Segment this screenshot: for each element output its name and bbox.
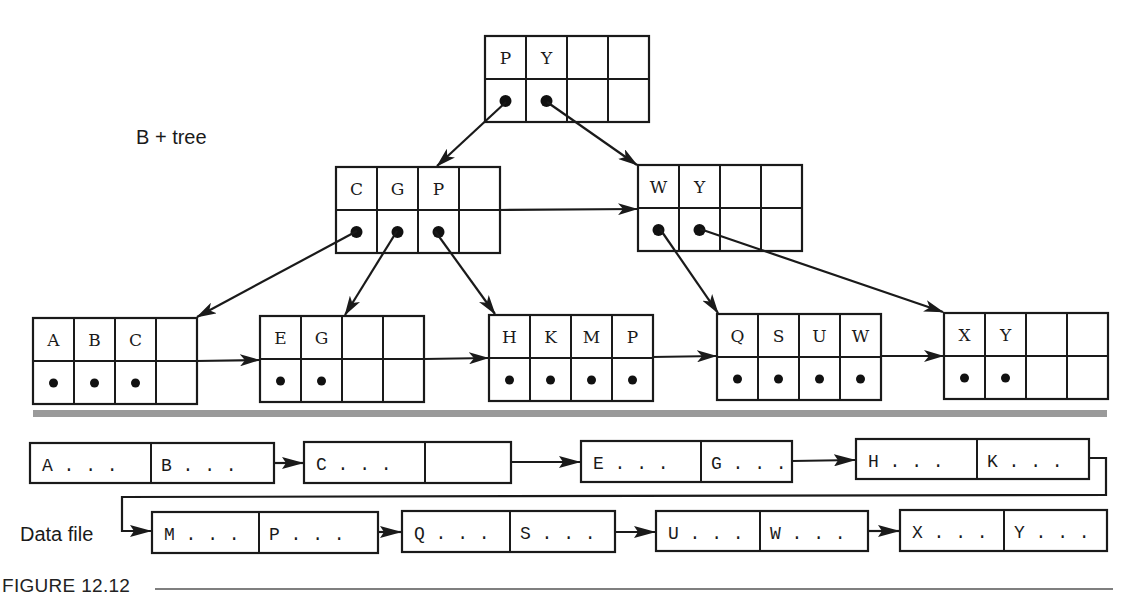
data-record: X . . . <box>912 523 988 543</box>
record-pointer-icon <box>505 376 514 385</box>
record-pointer-icon <box>733 375 742 384</box>
data-record: E . . . <box>593 454 669 474</box>
data-record: P . . . <box>269 525 345 545</box>
data-block-6: Q . . .S . . . <box>402 511 615 552</box>
data-block-2: C . . . <box>304 442 511 483</box>
record-pointer-icon <box>1001 374 1010 383</box>
data-block-1: A . . .B . . . <box>30 443 274 483</box>
data-record: A . . . <box>42 456 118 476</box>
node-key: K <box>544 327 557 347</box>
edge-internal-sibling <box>499 209 637 210</box>
node-key: P <box>627 327 638 347</box>
data-record: W . . . <box>770 524 846 544</box>
record-pointer-icon <box>276 377 285 386</box>
edge-c-to-leaf-abc <box>197 231 357 317</box>
node-key: S <box>773 326 785 346</box>
record-pointer-icon <box>856 375 865 384</box>
data-record: B . . . <box>161 456 237 476</box>
node-key: E <box>274 328 286 348</box>
edge-block-3-to-4 <box>792 460 855 461</box>
node-key: M <box>583 327 600 347</box>
node-key: U <box>812 326 826 346</box>
edge-y-to-leaf-xy <box>700 229 943 312</box>
leaf-node-xy: XY <box>944 313 1108 399</box>
node-key: P <box>433 179 444 199</box>
leaf-node-hkmp: HKMP <box>489 315 653 401</box>
record-pointer-icon <box>628 376 637 385</box>
node-key: C <box>129 330 142 350</box>
internal-node-cgp: CGP <box>336 167 500 253</box>
node-key: Y <box>999 325 1012 345</box>
edge-leaf-abc-to-eg <box>196 360 259 361</box>
bplus-tree-diagram: B + tree PY CGP WY ABC EG HKMP QSUW XY A… <box>0 0 1143 599</box>
data-record: S . . . <box>520 524 596 544</box>
data-record: C . . . <box>316 455 392 475</box>
record-pointer-icon <box>49 379 58 388</box>
node-key: A <box>46 330 60 350</box>
record-pointer-icon <box>90 379 99 388</box>
node-key: G <box>391 179 405 199</box>
figure-caption: FIGURE 12.12 <box>2 575 130 596</box>
edge-leaf-eg-to-hkmp <box>424 358 488 359</box>
data-record: Y . . . <box>1014 523 1090 543</box>
node-key: W <box>852 326 870 346</box>
bplus-tree-label: B + tree <box>136 126 207 148</box>
root-node: PY <box>485 36 649 122</box>
data-block-4: H . . .K . . . <box>856 439 1089 479</box>
data-block-7: U . . .W . . . <box>656 511 868 551</box>
separator-bar <box>33 410 1107 417</box>
leaf-node-abc: ABC <box>33 318 197 404</box>
edge-leaf-hkmp-to-qsuw <box>652 356 716 357</box>
data-file-label: Data file <box>20 523 93 545</box>
node-key: Y <box>540 48 553 68</box>
record-pointer-icon <box>317 377 326 386</box>
node-key: Q <box>731 326 745 346</box>
node-key: B <box>88 330 101 350</box>
node-key: Y <box>693 177 706 197</box>
data-record: K . . . <box>987 452 1063 472</box>
record-pointer-icon <box>131 379 140 388</box>
record-pointer-icon <box>546 376 555 385</box>
data-record: H . . . <box>868 452 944 472</box>
internal-node-wy: WY <box>638 165 802 251</box>
record-pointer-icon <box>815 375 824 384</box>
node-key: W <box>650 177 668 197</box>
data-record: Q . . . <box>414 524 490 544</box>
leaf-node-qsuw: QSUW <box>717 314 881 400</box>
data-record: U . . . <box>668 524 744 544</box>
node-key: X <box>958 325 971 345</box>
record-pointer-icon <box>774 375 783 384</box>
data-record: M . . . <box>164 525 240 545</box>
record-pointer-icon <box>587 376 596 385</box>
record-pointer-icon <box>960 374 969 383</box>
edge-root-p-to-cgp <box>437 102 506 166</box>
node-key: P <box>500 48 511 68</box>
data-block-5: M . . .P . . . <box>152 512 378 553</box>
leaf-node-eg: EG <box>260 316 424 402</box>
node-key: H <box>502 327 517 347</box>
data-record: G . . . <box>711 454 787 474</box>
data-block-8: X . . .Y . . . <box>900 510 1107 551</box>
node-key: G <box>315 328 329 348</box>
data-block-3: E . . .G . . . <box>581 441 792 482</box>
node-key: C <box>350 179 363 199</box>
